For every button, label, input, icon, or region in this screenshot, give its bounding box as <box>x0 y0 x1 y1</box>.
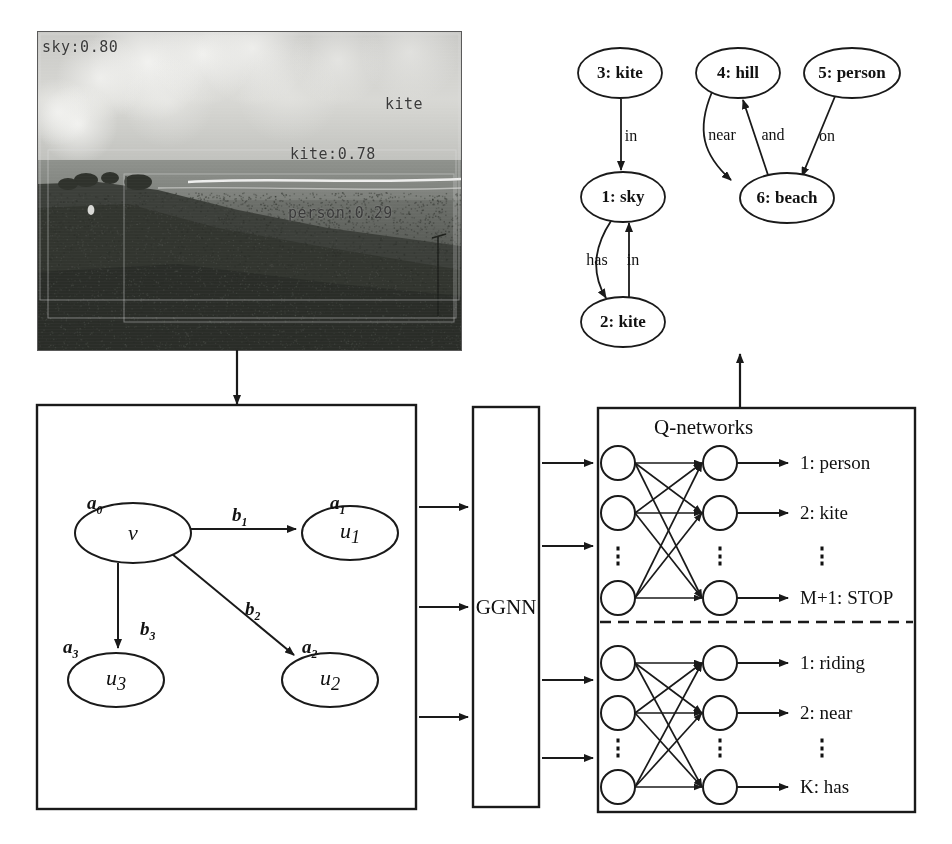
scene-graph-node-label-n3: 3: kite <box>597 63 643 83</box>
q-net-predicate-output-label-2: ⋮ <box>811 741 833 754</box>
input-graph-panel-border <box>37 405 416 809</box>
arrows-graph-to-ggnn <box>419 507 468 717</box>
scene-graph-edge-label-4: and <box>761 126 784 144</box>
q-net-object-column-dots-0: ⋮ <box>607 549 629 562</box>
q-net-object-output-label-2: ⋮ <box>811 549 833 562</box>
q-net-predicate-input-neuron-1[interactable] <box>601 696 635 730</box>
scene-graph-edge-label-0: in <box>625 127 637 145</box>
detection-label-0: sky:0.80 <box>42 38 118 56</box>
q-net-object-input-neuron-1[interactable] <box>601 496 635 530</box>
q-net-predicate-input-neuron-0[interactable] <box>601 646 635 680</box>
detection-label-3: person:0.29 <box>288 204 393 222</box>
detection-label-1: kite <box>385 95 423 113</box>
q-net-object-input-neuron-0[interactable] <box>601 446 635 480</box>
q-net-predicate-column-dots-1: ⋮ <box>709 741 731 754</box>
q-net-object-input-neuron-2[interactable] <box>601 581 635 615</box>
figure-canvas: sky:0.80kitekite:0.78person:0.29 3: kite… <box>0 0 952 844</box>
input-graph-node-annotation-1: a1 <box>330 492 345 518</box>
scene-graph-edge-label-3: near <box>708 126 736 144</box>
input-graph-node-annotation-3: a3 <box>63 636 78 662</box>
scene-graph-node-label-n6: 6: beach <box>757 188 818 208</box>
q-networks-neurons <box>601 446 788 804</box>
scene-graph-edge-label-5: on <box>819 127 835 145</box>
ggnn-label: GGNN <box>476 595 537 620</box>
scene-graph-edge-label-2: in <box>627 251 639 269</box>
q-net-predicate-output-label-1: 2: near <box>800 702 852 724</box>
q-net-object-output-label-1: 2: kite <box>800 502 848 524</box>
q-net-predicate-output-label-3: K: has <box>800 776 849 798</box>
scene-graph-node-label-n4: 4: hill <box>717 63 759 83</box>
input-graph-edge-label-2: b3 <box>140 618 155 644</box>
q-net-predicate-output-neuron-2[interactable] <box>703 770 737 804</box>
q-net-predicate-column-dots-0: ⋮ <box>607 741 629 754</box>
input-graph-node-label-0: v <box>128 520 138 546</box>
scene-graph-node-label-n2: 2: kite <box>600 312 646 332</box>
scene-graph-node-label-n1: 1: sky <box>602 187 645 207</box>
input-graph-node-annotation-0: a0 <box>87 492 102 518</box>
arrows-ggnn-to-qnet <box>542 463 593 758</box>
scene-graph-edge-label-1: has <box>586 251 607 269</box>
input-graph-edge-label-0: b1 <box>232 504 247 530</box>
q-net-predicate-output-label-0: 1: riding <box>800 652 865 674</box>
input-graph-node-label-2: u2 <box>320 665 340 695</box>
q-networks-title: Q-networks <box>654 415 753 440</box>
input-graph-node-label-1: u1 <box>340 518 360 548</box>
q-net-object-output-label-3: M+1: STOP <box>800 587 893 609</box>
q-net-object-output-neuron-2[interactable] <box>703 581 737 615</box>
input-graph-node-label-3: u3 <box>106 665 126 695</box>
q-net-object-output-neuron-0[interactable] <box>703 446 737 480</box>
q-net-object-column-dots-1: ⋮ <box>709 549 731 562</box>
q-net-predicate-input-neuron-2[interactable] <box>601 770 635 804</box>
q-net-predicate-output-neuron-1[interactable] <box>703 696 737 730</box>
detection-label-2: kite:0.78 <box>290 145 376 163</box>
q-net-object-output-label-0: 1: person <box>800 452 870 474</box>
input-graph-edge-label-1: b2 <box>245 598 260 624</box>
input-graph-node-annotation-2: a2 <box>302 636 317 662</box>
q-net-object-output-neuron-1[interactable] <box>703 496 737 530</box>
scene-graph-node-label-n5: 5: person <box>818 63 886 83</box>
q-net-predicate-output-neuron-0[interactable] <box>703 646 737 680</box>
